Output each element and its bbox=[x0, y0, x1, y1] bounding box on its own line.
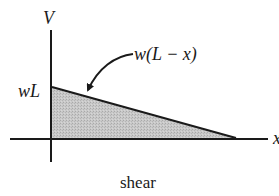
v-axis-label: V bbox=[43, 8, 56, 28]
shear-diagram: V x wL w(L − x) shear bbox=[0, 0, 279, 196]
x-axis-label: x bbox=[272, 128, 279, 148]
diagram-caption: shear bbox=[120, 173, 156, 192]
intercept-label: wL bbox=[18, 81, 40, 101]
curve-label: w(L − x) bbox=[134, 44, 197, 65]
leader-arrow-icon bbox=[88, 54, 133, 90]
